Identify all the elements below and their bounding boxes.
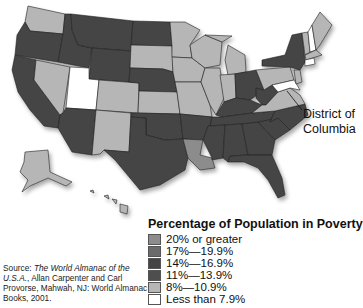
state-washington	[25, 6, 65, 34]
legend-swatch	[148, 234, 161, 245]
state-kansas	[138, 91, 180, 114]
state-arizona	[58, 108, 96, 155]
legend-item: 8%—10.9%	[148, 281, 245, 293]
legend-item: 20% or greater	[148, 233, 245, 245]
legend-label: 14%—16.9%	[166, 257, 233, 269]
legend-title: Percentage of Population in Poverty	[148, 217, 363, 231]
state-wyoming	[89, 48, 131, 82]
state-florida	[228, 155, 285, 198]
state-north-dakota	[131, 21, 172, 46]
state-montana	[71, 14, 133, 51]
district-of-columbia-label: District of Columbia	[303, 107, 356, 137]
source-citation: Source: The World Almanac of the U.S.A.,…	[3, 263, 153, 303]
state-mississippi	[203, 125, 225, 160]
legend-label: 17%—19.9%	[166, 245, 233, 257]
state-hawaii	[90, 190, 128, 214]
legend-label: 8%—10.9%	[166, 281, 227, 293]
state-new-mexico	[92, 110, 131, 155]
legend-items: 20% or greater 17%—19.9% 14%—16.9% 11%—1…	[148, 233, 245, 305]
source-prefix: Source:	[3, 263, 34, 273]
legend-item: 11%—13.9%	[148, 269, 245, 281]
state-colorado	[96, 80, 139, 113]
legend-item: 17%—19.9%	[148, 245, 245, 257]
legend-item: Less than 7.9%	[148, 293, 245, 305]
legend-label: 20% or greater	[166, 233, 242, 245]
legend-label: Less than 7.9%	[166, 293, 245, 305]
state-alaska	[20, 150, 72, 192]
state-maine	[312, 12, 332, 50]
legend-item: 14%—16.9%	[148, 257, 245, 269]
legend-label: 11%—13.9%	[166, 269, 232, 281]
state-new-york	[262, 33, 305, 70]
legend-swatch	[148, 246, 161, 257]
